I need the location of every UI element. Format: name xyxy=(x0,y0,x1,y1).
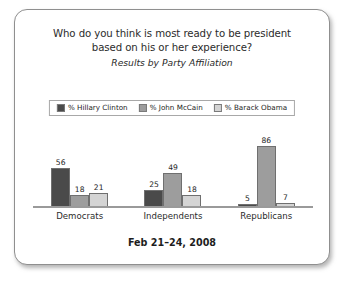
chart-legend: % Hillary Clinton % John McCain % Barack… xyxy=(49,100,295,116)
bar-clinton-independents[interactable]: 25 xyxy=(144,126,163,208)
chart-title-block: Who do you think is most ready to be pre… xyxy=(15,27,329,69)
category-label-republicans: Republicans xyxy=(220,211,313,221)
chart-footer-date: Feb 21–24, 2008 xyxy=(15,237,329,248)
chart-title-line-2: based on his or her experience? xyxy=(15,41,329,55)
chart-plot-area: 56 18 21 25 xyxy=(33,126,313,208)
bar-mccain-democrats[interactable]: 18 xyxy=(70,126,89,208)
legend-swatch-obama xyxy=(214,104,222,112)
category-label-democrats: Democrats xyxy=(33,211,126,221)
bar-value-mccain-independents: 49 xyxy=(168,163,178,172)
bar-value-obama-republicans: 7 xyxy=(283,193,288,202)
chart-card: Who do you think is most ready to be pre… xyxy=(14,9,330,265)
bar-value-clinton-republicans: 5 xyxy=(245,194,250,203)
bar-clinton-democrats[interactable]: 56 xyxy=(51,126,70,208)
bar-group-republicans: 5 86 7 xyxy=(220,126,313,208)
screenshot-root: Who do you think is most ready to be pre… xyxy=(0,0,347,281)
bar-clinton-republicans[interactable]: 5 xyxy=(238,126,257,208)
chart-title-line-1: Who do you think is most ready to be pre… xyxy=(15,27,329,41)
legend-item-clinton[interactable]: % Hillary Clinton xyxy=(57,103,128,112)
chart-subtitle: Results by Party Affiliation xyxy=(15,57,329,69)
bar-value-clinton-democrats: 56 xyxy=(56,158,66,167)
bar-rect-mccain-independents xyxy=(163,173,182,208)
bar-value-obama-independents: 18 xyxy=(187,185,197,194)
legend-item-obama[interactable]: % Barack Obama xyxy=(214,103,287,112)
bar-obama-republicans[interactable]: 7 xyxy=(276,126,295,208)
legend-swatch-clinton xyxy=(57,104,65,112)
legend-item-mccain[interactable]: % John McCain xyxy=(139,103,203,112)
category-axis: Democrats Independents Republicans xyxy=(33,211,313,221)
bar-value-clinton-independents: 25 xyxy=(149,180,159,189)
bar-rect-clinton-democrats xyxy=(51,168,70,208)
bar-value-mccain-republicans: 86 xyxy=(261,136,271,145)
bar-group-independents: 25 49 18 xyxy=(126,126,219,208)
bar-mccain-republicans[interactable]: 86 xyxy=(257,126,276,208)
legend-label-obama: % Barack Obama xyxy=(225,103,287,112)
bar-value-mccain-democrats: 18 xyxy=(75,185,85,194)
bar-obama-independents[interactable]: 18 xyxy=(182,126,201,208)
chart-baseline xyxy=(33,206,313,208)
bar-groups: 56 18 21 25 xyxy=(33,126,313,208)
category-label-independents: Independents xyxy=(126,211,219,221)
bar-obama-democrats[interactable]: 21 xyxy=(89,126,108,208)
legend-label-clinton: % Hillary Clinton xyxy=(68,103,128,112)
bar-value-obama-democrats: 21 xyxy=(94,183,104,192)
bar-group-democrats: 56 18 21 xyxy=(33,126,126,208)
legend-swatch-mccain xyxy=(139,104,147,112)
legend-label-mccain: % John McCain xyxy=(150,103,203,112)
bar-mccain-independents[interactable]: 49 xyxy=(163,126,182,208)
bar-rect-mccain-republicans xyxy=(257,146,276,208)
